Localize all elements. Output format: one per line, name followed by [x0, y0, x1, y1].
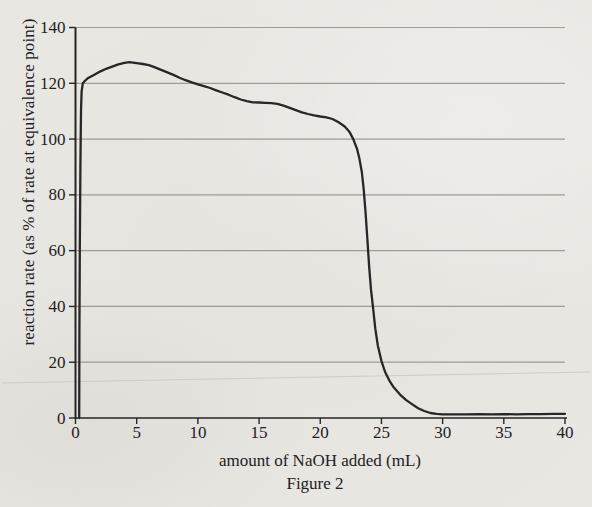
- y-tick-label-140: 140: [40, 18, 66, 37]
- x-tick-label-0: 0: [71, 423, 80, 442]
- y-tick-label-80: 80: [49, 185, 66, 204]
- scan-artifact-line: [2, 372, 590, 383]
- y-tick-label-120: 120: [40, 74, 66, 93]
- x-axis-label: amount of NaOH added (mL): [219, 451, 421, 471]
- scanned-page: 0204060801001201400510152025303540 react…: [0, 0, 592, 507]
- y-tick-label-60: 60: [49, 241, 66, 260]
- y-axis-label: reaction rate (as % of rate at equivalen…: [19, 19, 39, 346]
- x-tick-label-20: 20: [312, 423, 329, 442]
- x-tick-label-40: 40: [557, 423, 574, 442]
- x-tick-label-25: 25: [373, 423, 390, 442]
- y-tick-label-0: 0: [57, 409, 66, 428]
- reaction-rate-curve: [79, 62, 565, 418]
- y-tick-label-20: 20: [49, 353, 66, 372]
- y-tick-label-100: 100: [40, 130, 66, 149]
- x-tick-label-10: 10: [189, 423, 206, 442]
- chart-plot-area: 0204060801001201400510152025303540: [0, 0, 592, 507]
- x-tick-label-30: 30: [434, 423, 451, 442]
- y-tick-label-40: 40: [49, 297, 66, 316]
- figure-2: 0204060801001201400510152025303540 react…: [0, 0, 592, 507]
- figure-caption: Figure 2: [286, 474, 343, 494]
- x-tick-label-35: 35: [495, 423, 512, 442]
- x-tick-label-15: 15: [251, 423, 268, 442]
- x-tick-label-5: 5: [132, 423, 141, 442]
